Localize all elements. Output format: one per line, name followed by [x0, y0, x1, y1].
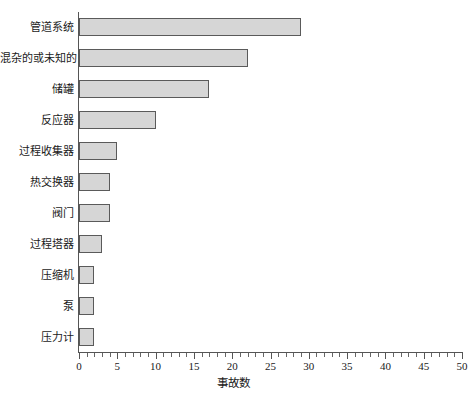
- category-label: 热交换器: [0, 176, 74, 188]
- x-minor-tick: [439, 353, 440, 357]
- bar: [79, 266, 94, 284]
- plot-area: [79, 12, 462, 352]
- x-major-tick: [309, 353, 310, 359]
- x-minor-tick: [263, 353, 264, 357]
- x-minor-tick: [102, 353, 103, 357]
- category-label: 压缩机: [0, 269, 74, 281]
- x-minor-tick: [202, 353, 203, 357]
- bar: [79, 297, 94, 315]
- x-tick-label: 45: [418, 360, 429, 372]
- category-axis-labels: 管道系统混杂的或未知的储罐反应器过程收集器热交换器阀门过程塔器压缩机泵压力计: [0, 0, 74, 393]
- x-tick-label: 10: [150, 360, 161, 372]
- x-tick-label: 50: [457, 360, 468, 372]
- x-minor-tick: [94, 353, 95, 357]
- x-minor-tick: [431, 353, 432, 357]
- bar-row: [79, 18, 462, 36]
- bar: [79, 80, 209, 98]
- x-minor-tick: [332, 353, 333, 357]
- x-minor-tick: [362, 353, 363, 357]
- x-minor-tick: [171, 353, 172, 357]
- bar-row: [79, 204, 462, 222]
- bar: [79, 111, 156, 129]
- x-tick-label: 0: [76, 360, 82, 372]
- bar-row: [79, 80, 462, 98]
- category-label: 反应器: [0, 114, 74, 126]
- x-major-tick: [79, 353, 80, 359]
- x-major-tick: [117, 353, 118, 359]
- x-minor-tick: [454, 353, 455, 357]
- x-minor-tick: [393, 353, 394, 357]
- x-minor-tick: [179, 353, 180, 357]
- x-minor-tick: [248, 353, 249, 357]
- x-axis-title-text: 事故数: [217, 377, 250, 389]
- bar: [79, 235, 102, 253]
- x-major-tick: [347, 353, 348, 359]
- x-minor-tick: [293, 353, 294, 357]
- x-minor-tick: [286, 353, 287, 357]
- bar: [79, 173, 110, 191]
- category-label: 过程塔器: [0, 238, 74, 250]
- bar-row: [79, 235, 462, 253]
- x-tick-label: 5: [115, 360, 121, 372]
- x-minor-tick: [401, 353, 402, 357]
- x-tick-label: 15: [188, 360, 199, 372]
- x-minor-tick: [370, 353, 371, 357]
- x-major-tick: [271, 353, 272, 359]
- category-label: 储罐: [0, 83, 74, 95]
- x-tick-label: 20: [227, 360, 238, 372]
- x-major-tick: [232, 353, 233, 359]
- x-minor-tick: [186, 353, 187, 357]
- bar: [79, 18, 301, 36]
- x-tick-label: 40: [380, 360, 391, 372]
- x-major-tick: [156, 353, 157, 359]
- x-minor-tick: [87, 353, 88, 357]
- x-minor-tick: [148, 353, 149, 357]
- bar-row: [79, 328, 462, 346]
- category-label: 混杂的或未知的: [0, 52, 74, 64]
- bar-row: [79, 297, 462, 315]
- x-minor-tick: [217, 353, 218, 357]
- category-label: 压力计: [0, 331, 74, 343]
- x-minor-tick: [324, 353, 325, 357]
- x-major-tick: [194, 353, 195, 359]
- category-label: 阀门: [0, 207, 74, 219]
- x-tick-label: 30: [303, 360, 314, 372]
- x-minor-tick: [301, 353, 302, 357]
- bar-row: [79, 266, 462, 284]
- x-major-tick: [462, 353, 463, 359]
- x-minor-tick: [133, 353, 134, 357]
- x-minor-tick: [408, 353, 409, 357]
- x-minor-tick: [278, 353, 279, 357]
- bar-row: [79, 111, 462, 129]
- bar: [79, 328, 94, 346]
- bar-chart: 管道系统混杂的或未知的储罐反应器过程收集器热交换器阀门过程塔器压缩机泵压力计 事…: [0, 0, 474, 393]
- bar-row: [79, 49, 462, 67]
- x-minor-tick: [339, 353, 340, 357]
- x-minor-tick: [316, 353, 317, 357]
- x-minor-tick: [447, 353, 448, 357]
- x-minor-tick: [355, 353, 356, 357]
- x-minor-tick: [255, 353, 256, 357]
- x-axis-title: 事故数: [0, 374, 474, 390]
- x-major-tick: [424, 353, 425, 359]
- category-label: 过程收集器: [0, 145, 74, 157]
- x-tick-label: 35: [342, 360, 353, 372]
- x-minor-tick: [240, 353, 241, 357]
- x-minor-tick: [209, 353, 210, 357]
- x-minor-tick: [416, 353, 417, 357]
- bar-row: [79, 142, 462, 160]
- x-minor-tick: [140, 353, 141, 357]
- x-minor-tick: [163, 353, 164, 357]
- bar-row: [79, 173, 462, 191]
- x-minor-tick: [225, 353, 226, 357]
- x-tick-label: 25: [265, 360, 276, 372]
- x-minor-tick: [110, 353, 111, 357]
- category-label: 泵: [0, 300, 74, 312]
- category-label: 管道系统: [0, 21, 74, 33]
- x-minor-tick: [125, 353, 126, 357]
- x-minor-tick: [378, 353, 379, 357]
- x-major-tick: [385, 353, 386, 359]
- bar: [79, 49, 248, 67]
- bar: [79, 204, 110, 222]
- bar: [79, 142, 117, 160]
